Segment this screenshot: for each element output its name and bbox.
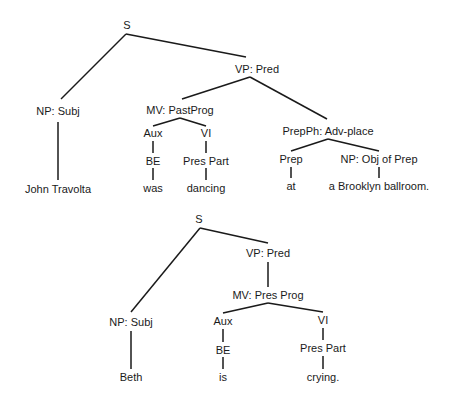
tree-edge <box>328 139 379 151</box>
node-vi: VI <box>201 127 211 139</box>
node-was: was <box>142 182 163 194</box>
syntax-tree-diagram: SNP: SubjVP: PredMV: PastProgAuxVIBEPres… <box>0 0 456 400</box>
node-john: John Travolta <box>25 183 92 195</box>
tree-edge <box>200 228 268 243</box>
node-s: S <box>195 213 202 225</box>
node-be: BE <box>216 344 231 356</box>
node-be: BE <box>146 155 161 167</box>
node-is: is <box>219 371 227 383</box>
node-vp-pred: VP: Pred <box>246 247 290 259</box>
tree-beth: SNP: SubjVP: PredMV: Pres ProgAuxVIBEPre… <box>109 213 346 383</box>
tree-edge <box>268 303 323 312</box>
tree-edge <box>61 34 126 99</box>
tree-john-travolta: SNP: SubjVP: PredMV: PastProgAuxVIBEPres… <box>25 19 429 195</box>
tree-edge <box>291 139 328 151</box>
tree-edge <box>131 228 200 312</box>
node-dancing: dancing <box>187 182 226 194</box>
node-np-obj: NP: Obj of Prep <box>340 153 417 165</box>
node-prespart: Pres Part <box>183 155 229 167</box>
node-ballroom: a Brooklyn ballroom. <box>329 180 429 192</box>
node-aux: Aux <box>144 127 163 139</box>
tree-edge <box>182 77 250 99</box>
node-s: S <box>123 19 130 31</box>
node-aux: Aux <box>214 315 233 327</box>
node-prep: Prep <box>279 153 302 165</box>
tree-edge <box>153 118 180 126</box>
node-np-subj: NP: Subj <box>36 105 79 117</box>
node-vi: VI <box>318 314 328 326</box>
node-prespart: Pres Part <box>300 342 346 354</box>
node-mv: MV: PastProg <box>146 104 213 116</box>
node-np-subj: NP: Subj <box>109 316 152 328</box>
tree-edge <box>250 77 327 119</box>
node-at: at <box>286 180 295 192</box>
node-vp-pred: VP: Pred <box>235 63 279 75</box>
node-beth: Beth <box>120 371 143 383</box>
node-mv: MV: Pres Prog <box>232 289 303 301</box>
tree-edge <box>126 34 246 57</box>
node-prepph: PrepPh: Adv-place <box>282 125 373 137</box>
tree-edge <box>180 118 206 126</box>
tree-edge <box>223 303 268 313</box>
node-crying: crying. <box>307 371 339 383</box>
